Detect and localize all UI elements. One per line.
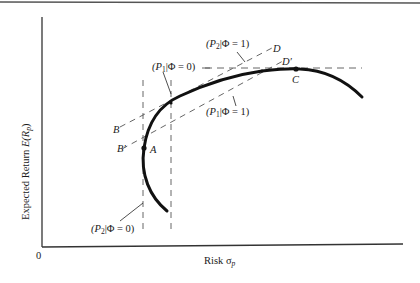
label-p2-phi0-rest: |Φ = 0) [105,223,135,235]
x-axis-label-sub: p [231,259,236,268]
top-border-rule [0,2,420,3]
label-p1-phi1-open: (P [206,106,216,118]
x-axis [42,244,403,247]
leader-p1-phi0 [163,72,171,94]
label-p1-phi0-rest: |Φ = 0) [166,61,196,73]
label-point-bprime: B′ [117,143,126,154]
label-p2-phi0-open: (P [91,223,101,235]
label-p1-phi0: (P1|Φ = 0) [152,61,196,74]
efficient-frontier-diagram: A B B′ C D D′ (P1|Φ = 0) (P2|Φ = 1) (P1|… [0,0,420,283]
point-dprime-marker [260,69,263,72]
point-a-marker [141,145,146,150]
y-axis-label-close: ) [20,123,32,127]
label-p1-phi1: (P1|Φ = 1) [206,106,250,119]
label-point-a: A [149,144,157,155]
x-axis-label-text: Risk σ [204,255,232,266]
label-point-dprime: D′ [281,56,293,67]
label-p2-phi0: (P2|Φ = 0) [91,223,135,236]
point-c-marker [293,66,298,71]
label-p1-phi0-open: (P [152,61,162,73]
label-p2-phi1: (P2|Φ = 1) [206,38,250,51]
label-p2-phi1-open: (P [206,38,216,50]
point-tangent-marker [169,101,172,104]
label-p1-phi1-rest: |Φ = 1) [220,106,250,118]
y-axis-label: Expected Return E(Rp) [20,123,33,220]
origin-label: 0 [36,250,41,261]
label-p2-phi1-rest: |Φ = 1) [220,38,250,50]
y-axis-label-e: E(R [20,130,32,148]
label-point-b: B [113,124,120,135]
leader-p1-phi1 [233,96,236,106]
y-axis-label-text: Expected Return [20,147,31,220]
frontier-curve [143,69,362,211]
leader-p2-phi1 [237,52,245,62]
label-point-c: C [292,74,300,85]
x-axis-label: Risk σp [204,255,236,268]
leader-p2-phi0 [120,203,143,221]
label-point-d: D [272,43,281,54]
